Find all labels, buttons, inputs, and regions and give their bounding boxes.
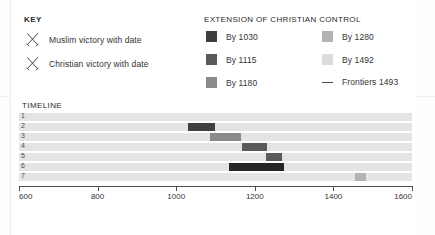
timeline-row: 2	[19, 123, 412, 131]
timeline-row-number: 6	[21, 162, 25, 169]
axis-tick-label: 600	[19, 192, 32, 201]
legend-swatch	[322, 54, 333, 65]
legend-item-by-1030: By 1030	[206, 31, 258, 42]
timeline-row-number: 7	[21, 172, 25, 179]
key-item-christian-victory: Christian victory with date	[24, 55, 149, 72]
axis-tick	[333, 186, 334, 191]
timeline-bar	[210, 133, 241, 141]
legend-item-by-1492: By 1492	[322, 54, 374, 65]
frontier-line-icon	[322, 82, 333, 83]
crossed-swords-icon	[24, 55, 41, 72]
timeline-axis-line	[19, 186, 412, 187]
key-item-label: Muslim victory with date	[49, 35, 142, 45]
timeline-heading: TIMELINE	[22, 101, 62, 110]
axis-tick	[412, 186, 413, 191]
axis-tick-label: 1200	[246, 192, 264, 201]
key-heading: KEY	[24, 15, 42, 24]
timeline-row: 6	[19, 163, 412, 171]
legend-swatch	[206, 77, 217, 88]
axis-tick-label: 800	[91, 192, 104, 201]
legend-item-label: By 1115	[226, 55, 257, 65]
crossed-swords-icon	[24, 31, 41, 48]
legend-item-label: By 1280	[342, 32, 374, 42]
timeline-bar	[242, 143, 267, 151]
timeline-row: 4	[19, 143, 412, 151]
legend-item-label: By 1180	[226, 78, 257, 88]
timeline-bar	[229, 163, 284, 171]
timeline-track-group: 1234567	[19, 113, 412, 183]
legend-item-by-1180: By 1180	[206, 77, 257, 88]
axis-tick	[176, 186, 177, 191]
key-item-label: Christian victory with date	[49, 59, 149, 69]
legend-item-label: By 1030	[226, 32, 258, 42]
legend-swatch	[206, 54, 217, 65]
legend-item-by-1280: By 1280	[322, 31, 374, 42]
axis-tick-label: 1400	[324, 192, 342, 201]
legend-item-frontiers-1493: Frontiers 1493	[322, 77, 398, 87]
legend-item-label: Frontiers 1493	[342, 77, 398, 87]
legend-item-label: By 1492	[342, 55, 374, 65]
timeline-bar	[188, 123, 216, 131]
timeline-row: 7	[19, 173, 412, 181]
timeline-row-number: 1	[21, 112, 25, 119]
axis-tick	[98, 186, 99, 191]
axis-tick	[255, 186, 256, 191]
axis-tick	[19, 186, 20, 191]
map-legend-timeline-panel: KEY Muslim victory with date Christian v…	[0, 0, 435, 235]
legend-item-by-1115: By 1115	[206, 54, 257, 65]
timeline-row-number: 2	[21, 122, 25, 129]
axis-tick-label: 1600	[394, 192, 412, 201]
legend-swatch	[206, 31, 217, 42]
timeline-row: 3	[19, 133, 412, 141]
timeline-row: 1	[19, 113, 412, 121]
legend-swatch	[322, 31, 333, 42]
timeline-row: 5	[19, 153, 412, 161]
timeline-row-number: 4	[21, 142, 25, 149]
timeline-bar	[355, 173, 366, 181]
timeline-row-number: 3	[21, 132, 25, 139]
timeline-row-number: 5	[21, 152, 25, 159]
key-item-muslim-victory: Muslim victory with date	[24, 31, 142, 48]
legend-heading: EXTENSION OF CHRISTIAN CONTROL	[204, 15, 361, 24]
timeline-bar	[266, 153, 283, 161]
axis-tick-label: 1000	[167, 192, 185, 201]
